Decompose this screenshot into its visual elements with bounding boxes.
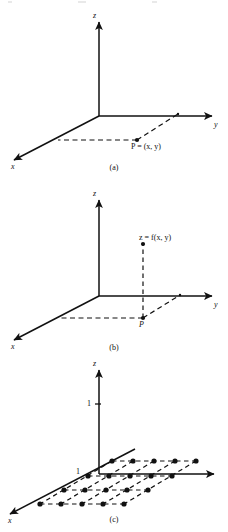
- panel-b-axes-drawing: [0, 178, 228, 356]
- x-axis-tick-one-label: 1: [76, 468, 80, 476]
- z-axis-tick-one-label: 1: [87, 400, 91, 408]
- z-axis-label: z: [93, 12, 96, 20]
- z-axis-label: z: [93, 190, 96, 198]
- y-axis-mark-dot: [177, 113, 179, 115]
- point-p-label: P = (x, y): [131, 143, 161, 151]
- function-value-label: z = f(x, y): [139, 234, 171, 242]
- x-axis-label: x: [11, 343, 15, 351]
- y-axis-mark-dot: [179, 294, 181, 296]
- dash-line-to-y-axis: [143, 295, 180, 318]
- panel-a-axes-drawing: [0, 0, 228, 178]
- x-axis-line: [14, 296, 99, 340]
- panel-a-coordinate-system: z y x P = (x, y) (a): [0, 0, 228, 178]
- function-value-dot: [141, 242, 145, 246]
- panel-b-coordinate-system: z y x z = f(x, y) P (b): [0, 178, 228, 356]
- lattice-column-dash-lines: [40, 461, 196, 504]
- panel-c-caption: (c): [94, 516, 134, 524]
- x-axis-label: x: [8, 517, 12, 525]
- y-axis-label: y: [214, 301, 218, 309]
- scan-artifact-top-edge: [0, 1, 228, 5]
- x-axis-line: [14, 116, 99, 160]
- dash-line-to-y-axis: [137, 114, 178, 140]
- z-axis-label: z: [93, 360, 96, 368]
- panel-c-axes-drawing: [0, 356, 228, 532]
- x-axis-label: x: [11, 163, 15, 171]
- y-axis-label: y: [214, 121, 218, 129]
- panel-b-caption: (b): [94, 344, 134, 352]
- panel-a-caption: (a): [94, 164, 134, 172]
- panel-c-lattice-diagram: z x 1 1 (c): [0, 356, 228, 532]
- point-p-label: P: [139, 321, 144, 329]
